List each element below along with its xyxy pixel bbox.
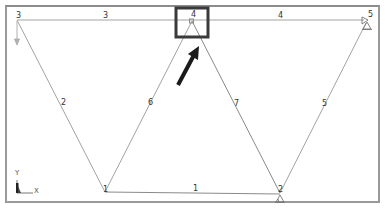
node-label-1: 1 (103, 186, 108, 194)
axis-label-x: X (34, 188, 39, 195)
element-5[interactable] (280, 23, 366, 193)
node-label-4: 4 (191, 11, 196, 19)
element-label-7: 7 (234, 100, 239, 108)
element-label-5: 5 (322, 100, 327, 108)
element-label-1: 1 (193, 185, 198, 193)
axis-triad-icon (16, 180, 33, 193)
element-label-4: 4 (278, 12, 283, 20)
axis-label-y: Y (15, 170, 19, 177)
diagram-canvas: 3 4 5 1 2 3 4 2 6 7 5 1 Y X (0, 0, 385, 211)
node-label-3: 3 (16, 12, 21, 20)
node-label-5: 5 (368, 11, 373, 19)
truss-drawing (0, 0, 385, 211)
element-label-3: 3 (103, 12, 108, 20)
pointer-arrow-icon (178, 46, 199, 85)
element-label-6: 6 (148, 99, 153, 107)
node-label-2: 2 (278, 186, 283, 194)
support-icon-node-2 (275, 195, 285, 203)
load-arrow-icon (15, 21, 20, 45)
element-label-2: 2 (61, 99, 66, 107)
